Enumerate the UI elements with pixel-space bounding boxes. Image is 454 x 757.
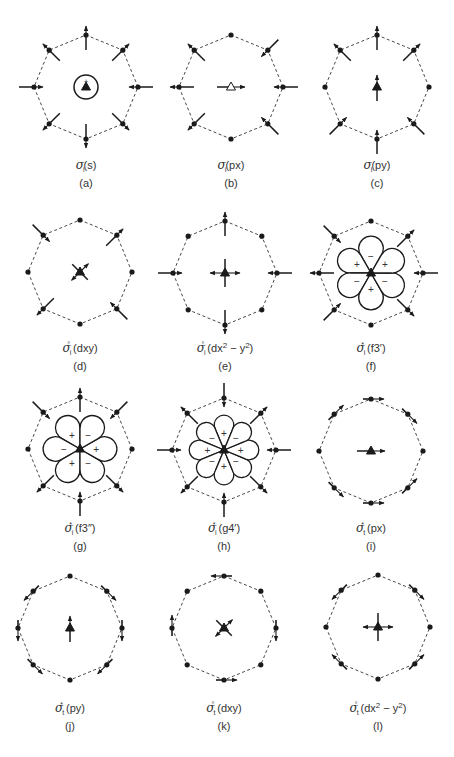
ligand-atom <box>114 306 119 311</box>
panel-f: −+−+−+ <box>310 218 438 327</box>
ligand-atom <box>77 321 82 326</box>
ligand-atom <box>405 485 410 490</box>
ligand-atom <box>316 448 321 453</box>
panel-j <box>15 573 124 682</box>
ligand-atom <box>374 32 379 37</box>
ligand-atom <box>322 84 327 89</box>
panel-tag-c: (c) <box>371 177 384 189</box>
panel-a: + <box>19 26 153 148</box>
ligand-atom <box>411 48 416 53</box>
ligand-atom <box>77 394 82 399</box>
ligand-atom <box>265 48 270 53</box>
ligand-atom <box>412 588 417 593</box>
ligand-atom <box>405 307 410 312</box>
ligand-atom <box>47 121 52 126</box>
ligand-atom <box>221 677 226 682</box>
panel-i <box>316 396 425 505</box>
mode-caption-e: σi° (dx2 − y2) <box>197 338 254 359</box>
panel-tag-h: (h) <box>217 540 230 552</box>
ligand-atom <box>185 662 190 667</box>
ligand-atom <box>368 218 373 223</box>
lobe-sign: − <box>233 456 239 467</box>
panel-h: +−+−+−+− <box>157 383 291 517</box>
ligand-atom <box>114 483 119 488</box>
ligand-atom <box>192 121 197 126</box>
ligand-atom <box>120 121 125 126</box>
metal-atom-triangle <box>367 446 376 454</box>
ligand-atom <box>374 136 379 141</box>
lobe-sign: + <box>354 259 360 270</box>
ligand-atom <box>338 48 343 53</box>
lobe-sign: + <box>368 284 374 295</box>
ligand-atom <box>129 446 134 451</box>
ligand-atom <box>316 270 321 275</box>
panel-tag-g: (g) <box>73 540 86 552</box>
ligand-atom <box>83 32 88 37</box>
lobe-sign: − <box>61 444 67 455</box>
ligand-atom <box>332 234 337 239</box>
ligand-atom <box>104 589 109 594</box>
ligand-atom <box>332 485 337 490</box>
mode-caption-c: σi (py) <box>364 155 391 176</box>
ligand-atom <box>31 84 36 89</box>
ligand-atom <box>368 396 373 401</box>
metal-atom-triangle <box>221 268 230 276</box>
ligand-atom <box>405 234 410 239</box>
ligand-atom <box>368 500 373 505</box>
ligand-atom <box>228 32 233 37</box>
ligand-atom <box>420 448 425 453</box>
lobe-sign: − <box>85 430 91 441</box>
ligand-atom <box>83 136 88 141</box>
ligand-atom <box>258 411 263 416</box>
panel-c <box>322 26 431 154</box>
ligand-atom <box>258 589 263 594</box>
panel-b <box>170 32 298 141</box>
mode-caption-a: σi (s) <box>76 155 97 176</box>
lobe-sign: − <box>368 251 374 262</box>
metal-atom-triangle <box>374 622 383 630</box>
lobe-sign: + <box>69 430 75 441</box>
ligand-atom <box>31 589 36 594</box>
panel-e <box>158 212 292 334</box>
panel-tag-f: (f) <box>366 360 376 372</box>
ligand-atom <box>339 661 344 666</box>
ligand-atom <box>339 588 344 593</box>
lobe-sign: + <box>69 458 75 469</box>
panel-tag-d: (d) <box>73 360 86 372</box>
ligand-atom <box>169 447 174 452</box>
ligand-atom <box>258 662 263 667</box>
panel-d <box>25 217 134 326</box>
ligand-atom <box>135 84 140 89</box>
ligand-atom <box>185 484 190 489</box>
panel-g: +−+−+− <box>25 388 134 516</box>
lobe-sign: + <box>382 259 388 270</box>
vibration-modes-figure: +−+−+−++−+−+−+−+−+−+− <box>0 0 454 757</box>
ligand-atom <box>176 84 181 89</box>
ligand-atom <box>15 625 20 630</box>
metal-atom-triangle <box>227 82 236 90</box>
mode-caption-j: σt* (py) <box>55 698 85 719</box>
ligand-atom <box>338 121 343 126</box>
ligand-atom <box>77 498 82 503</box>
ligand-atom <box>170 270 175 275</box>
lobe-sign: − <box>209 456 215 467</box>
ligand-atom <box>274 270 279 275</box>
ligand-atom <box>129 269 134 274</box>
lobe-sign: − <box>209 433 215 444</box>
ligand-atom <box>114 233 119 238</box>
ligand-atom <box>25 446 30 451</box>
ligand-atom <box>420 270 425 275</box>
ligand-atom <box>273 625 278 630</box>
mode-caption-l: σt° (dx2 − y2) <box>350 698 407 719</box>
mode-caption-i: σt* (px) <box>356 518 386 539</box>
ligand-atom <box>375 676 380 681</box>
ligand-atom <box>258 484 263 489</box>
ligand-atom <box>222 218 227 223</box>
ligand-atom <box>186 307 191 312</box>
ligand-atom <box>426 84 431 89</box>
panel-tag-k: (k) <box>218 720 231 732</box>
lobe-sign: − <box>354 276 360 287</box>
panel-tag-a: (a) <box>79 177 92 189</box>
ligand-atom <box>221 499 226 504</box>
mode-caption-f: σi* (f3′) <box>356 338 385 359</box>
